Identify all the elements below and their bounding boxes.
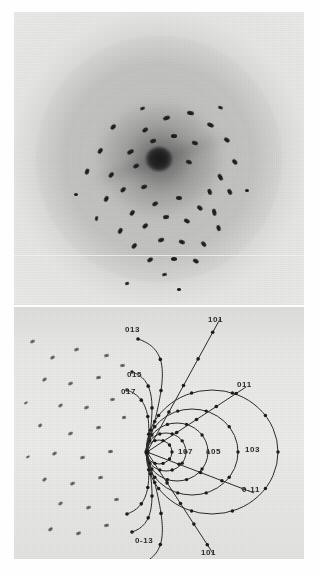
zone-node [264,487,267,490]
zone-node [153,425,156,428]
label-103: 103 [245,445,260,454]
zone-node [150,467,153,470]
zone-node [165,481,169,485]
zone-index-diagram: 0131010150170111071051030-110-13101 [14,307,304,559]
zone-node [146,486,150,490]
zone-node [130,530,134,534]
diffraction-spot [176,196,182,200]
zone-node [153,481,157,485]
figure-page: 0131010150170111071051030-110-13101 [0,0,318,574]
zone-node [150,433,153,436]
zone-node [211,331,215,335]
zone-node [231,391,234,394]
zone-node [190,509,193,512]
diffraction-spot [211,208,216,215]
diffraction-spot [74,193,78,196]
film-scratch-line [14,255,304,256]
arc-0-17 [127,452,149,514]
zone-node [206,543,210,547]
zone-node [176,409,179,412]
zone-node [195,418,199,422]
zone-node [153,476,156,479]
convergence-node [144,449,149,454]
label-101-top: 101 [208,315,223,324]
label-0-13: 0-13 [135,536,153,545]
zone-node [190,391,193,394]
zone-node [159,512,163,516]
zone-node [158,468,161,471]
zone-node [157,487,160,490]
zone-node [153,420,157,424]
zone-node [215,405,219,409]
zone-node [185,478,188,481]
zone-node [148,461,151,464]
zone-node [146,415,150,419]
arc-017 [127,390,149,452]
label-013: 013 [125,325,140,334]
zone-node [180,461,183,464]
zone-node [147,432,151,436]
zone-node [170,450,173,453]
zone-node [159,389,163,393]
zone-node [146,384,150,388]
zone-line-group [147,319,254,555]
zone-node [153,462,156,465]
zone-node [185,423,188,426]
zone-node [177,463,181,467]
zone-curve-svg [14,307,304,559]
zone-node [228,425,231,428]
zone-node [161,439,164,442]
zone-node [150,494,154,498]
zone-node [159,543,163,547]
zone-node [231,509,234,512]
zone-node [149,472,153,476]
zone-node [146,516,150,520]
zone-node [170,432,173,435]
diffraction-spot [161,272,167,276]
zone-node [157,414,160,417]
zone-node [220,479,224,483]
zone-node [276,450,279,453]
zone-node [153,439,156,442]
zone-node [167,410,171,414]
zone-node [176,491,179,494]
zone-node [170,468,173,471]
zone-node [182,384,186,388]
zone-node [200,467,203,470]
diffraction-spot [171,257,177,261]
zone-node [236,450,239,453]
label-015: 015 [127,370,142,379]
zone-node [180,439,183,442]
zone-node [139,398,143,402]
diffraction-spot [245,189,249,192]
zone-node [149,428,153,432]
zone-node [166,478,169,481]
zone-node [199,471,203,475]
zone-node [264,414,267,417]
zone-node [168,457,171,460]
zone-node [192,522,196,526]
zone-node [168,443,171,446]
zone-node [175,431,179,435]
zone-node [205,491,208,494]
label-107: 107 [178,447,193,456]
label-011: 011 [237,380,252,389]
zone-node [136,337,140,341]
zone-node [159,358,163,362]
diffraction-spot [139,106,144,110]
label-017: 017 [121,387,136,396]
diffraction-spot [171,134,178,138]
zone-node [139,502,143,506]
zone-node [234,392,238,396]
label-0-11: 0-11 [242,485,260,494]
zone-node [148,439,151,442]
zone-node [200,433,203,436]
label-105: 105 [206,447,221,456]
zone-node [161,462,164,465]
zone-node [147,468,151,472]
label-101-bottom: 101 [201,548,216,557]
diffraction-spot [94,215,98,221]
diffraction-spot [177,288,182,291]
zone-node [205,409,208,412]
zone-node [228,476,231,479]
